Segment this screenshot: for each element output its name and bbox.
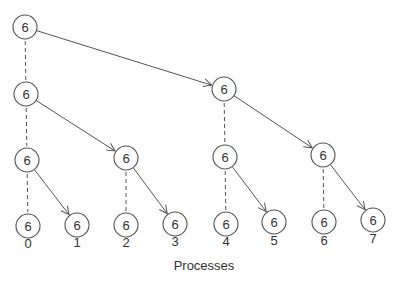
arrow-edge [34,170,69,215]
tree-node: 6 [212,77,236,101]
process-label: 2 [122,235,129,250]
node-value: 6 [220,82,227,97]
node-value: 6 [222,217,229,232]
process-label: 6 [320,233,327,248]
process-label: 5 [270,233,277,248]
node-value: 6 [319,148,326,163]
node-value: 6 [21,20,28,35]
tree-node: 6 [214,212,238,236]
axis-label-processes: Processes [174,258,235,273]
node-value: 6 [122,218,129,233]
tree-node: 6 [14,82,38,106]
arrow-edge [36,100,115,151]
arrow-edges [34,31,365,215]
dashed-edge [25,41,26,80]
process-label: 1 [73,235,80,250]
tree-node: 6 [361,208,385,232]
node-value: 6 [320,215,327,230]
tree-node: 6 [13,15,37,39]
arrow-edge [234,96,312,148]
tree-node: 6 [16,214,40,238]
process-label: 0 [24,236,31,251]
node-value: 6 [122,151,129,166]
dashed-edge [225,171,226,210]
node-value: 6 [171,217,178,232]
tree-nodes: 666666666666666 [13,15,385,238]
node-value: 6 [23,153,30,168]
node-value: 6 [270,215,277,230]
node-value: 6 [73,218,80,233]
arrow-edge [133,168,167,214]
tree-node: 6 [114,213,138,237]
dashed-edge [224,103,225,143]
process-label: 7 [369,231,376,246]
binomial-tree-diagram: 666666666666666 01234567 Processes [0,0,395,283]
dashed-edge [27,174,28,212]
dashed-edge [26,108,27,146]
arrow-edge [36,31,211,86]
arrow-edge [232,167,266,212]
node-value: 6 [24,219,31,234]
tree-node: 6 [114,146,138,170]
tree-node: 6 [262,210,286,234]
tree-node: 6 [213,145,237,169]
tree-node: 6 [311,143,335,167]
tree-node: 6 [163,212,187,236]
process-label: 4 [222,234,229,249]
dashed-edges [25,41,324,212]
node-value: 6 [369,213,376,228]
tree-node: 6 [312,210,336,234]
node-value: 6 [221,150,228,165]
node-value: 6 [22,87,29,102]
process-label: 3 [171,234,178,249]
tree-node: 6 [65,213,89,237]
arrow-edge [330,165,365,210]
dashed-edge [323,169,324,208]
tree-node: 6 [15,148,39,172]
